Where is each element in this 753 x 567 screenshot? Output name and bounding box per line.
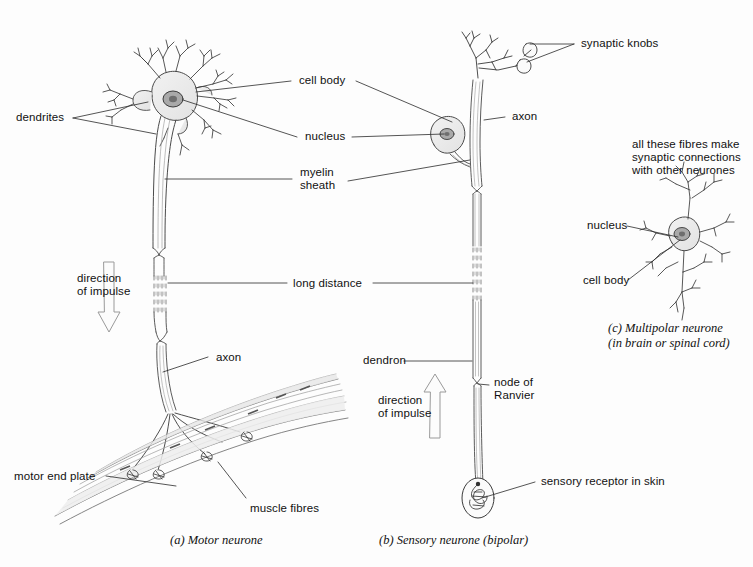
caption-b-text: Sensory neurone (bipolar) — [397, 533, 528, 547]
label-node-of-ranvier: node of Ranvier — [494, 376, 534, 402]
label-direction-of-impulse-b: direction of impulse — [378, 394, 431, 420]
label-cell-body-a: cell body — [299, 74, 345, 87]
label-cell-body-c: cell body — [583, 274, 629, 287]
label-axon-a: axon — [216, 351, 241, 364]
label-synaptic-knobs: synaptic knobs — [581, 37, 658, 50]
label-nucleus-a: nucleus — [305, 130, 345, 143]
caption-b: (b) Sensory neurone (bipolar) — [379, 533, 528, 548]
caption-c-text: Multipolar neurone — [625, 321, 723, 335]
label-dendron: dendron — [363, 354, 406, 367]
label-dendrites: dendrites — [16, 111, 64, 124]
label-long-distance: long distance — [293, 277, 362, 290]
caption-c: (c) Multipolar neurone(in brain or spina… — [608, 321, 730, 351]
caption-c-text2: (in brain or spinal cord) — [608, 336, 730, 350]
caption-a: (a) Motor neurone — [170, 533, 263, 548]
label-axon-b: axon — [512, 110, 537, 123]
label-myelin-sheath: myelin sheath — [300, 166, 335, 192]
multipolar-neurone-drawing — [640, 162, 734, 320]
label-direction-of-impulse-a: direction of impulse — [77, 272, 130, 298]
label-nucleus-c: nucleus — [587, 219, 627, 232]
label-fibres-note: all these fibres make synaptic connectio… — [632, 138, 741, 177]
sensory-neurone-drawing — [431, 31, 537, 518]
caption-b-marker: (b) — [379, 533, 394, 547]
caption-c-marker: (c) — [608, 321, 622, 335]
label-motor-end-plate: motor end plate — [14, 470, 95, 483]
label-muscle-fibres: muscle fibres — [250, 502, 319, 515]
caption-a-marker: (a) — [170, 533, 185, 547]
caption-a-text: Motor neurone — [188, 533, 263, 547]
label-sensory-receptor: sensory receptor in skin — [541, 475, 665, 488]
figure-canvas: dendrites cell body nucleus myelin sheat… — [0, 0, 753, 567]
